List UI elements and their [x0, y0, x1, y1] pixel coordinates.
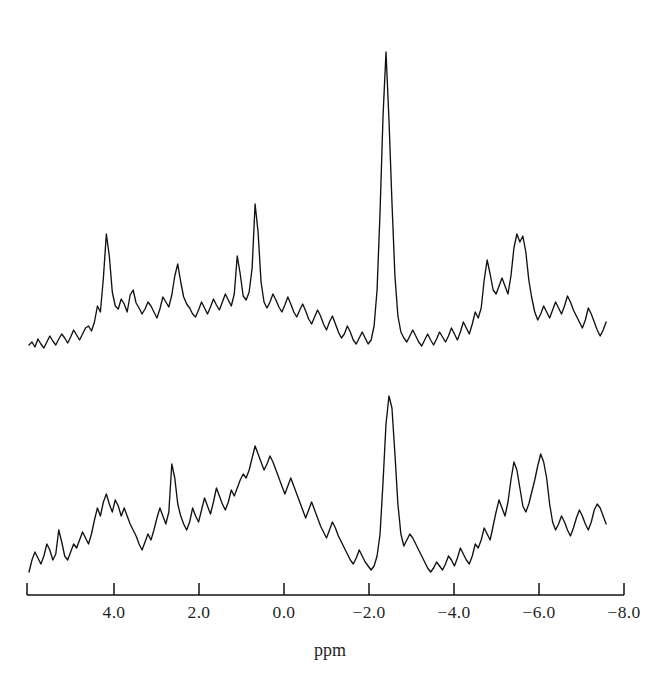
lower-trace: [29, 396, 606, 572]
axis-tick-label-5: −6.0: [523, 602, 556, 622]
axis-tick-label-2: 0.0: [273, 602, 296, 622]
axis-tick-marks: [27, 583, 624, 595]
spectrum-canvas: 4.02.00.0−2.0−4.0−6.0−8.0 ppm: [0, 0, 661, 684]
upper-trace-path: [29, 52, 606, 348]
upper-trace: [29, 52, 606, 348]
axis-tick-label-1: 2.0: [188, 602, 211, 622]
lower-trace-path: [29, 396, 606, 572]
axis-tick-label-6: −8.0: [608, 602, 641, 622]
nmr-spectrum-figure: 4.02.00.0−2.0−4.0−6.0−8.0 ppm: [0, 0, 661, 684]
axis-tick-label-4: −4.0: [438, 602, 471, 622]
axis-title: ppm: [314, 640, 346, 660]
ppm-axis: 4.02.00.0−2.0−4.0−6.0−8.0: [27, 583, 640, 622]
axis-tick-labels: 4.02.00.0−2.0−4.0−6.0−8.0: [103, 602, 641, 622]
axis-tick-label-0: 4.0: [103, 602, 126, 622]
axis-tick-label-3: −2.0: [353, 602, 386, 622]
